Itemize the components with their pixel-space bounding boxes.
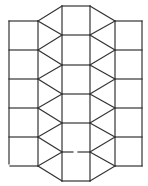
edges-group [9,6,142,181]
right-triangle-edge [90,65,115,79]
right-triangle-edge [90,123,115,137]
left-triangle-edge [38,137,62,152]
left-triangle-edge [38,35,62,50]
tiling-diagram [0,0,148,186]
left-triangle-edge [38,108,62,123]
left-triangle-edge [38,21,62,35]
left-triangle-edge [38,166,62,181]
left-triangle-edge [38,50,62,65]
left-triangle-edge [38,65,62,79]
right-triangle-edge [90,6,115,21]
right-triangle-edge [90,50,115,65]
right-triangle-edge [90,152,115,166]
left-triangle-edge [38,79,62,94]
left-triangle-edge [38,123,62,137]
right-triangle-edge [90,166,115,181]
left-triangle-edge [38,152,62,166]
left-triangle-edge [38,6,62,21]
right-triangle-edge [90,35,115,50]
left-triangle-edge [38,94,62,108]
right-triangle-edge [90,94,115,108]
right-triangle-edge [90,137,115,152]
right-triangle-edge [90,79,115,94]
right-triangle-edge [90,108,115,123]
right-triangle-edge [90,21,115,35]
